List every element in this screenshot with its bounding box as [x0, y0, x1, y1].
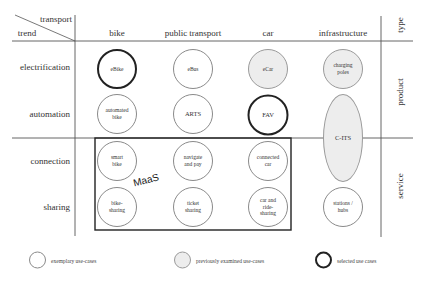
- use-case-bike-sharing: bike-sharing: [97, 187, 137, 227]
- use-case-navigate-and-pay: navigate and pay: [173, 141, 213, 181]
- use-case-connected-car: connected car: [248, 141, 288, 181]
- use-case-label: stations / hubs: [329, 200, 357, 214]
- corner-row-axis-label: trend: [18, 28, 37, 38]
- legend-exemplary-circle-icon: [29, 252, 46, 269]
- use-case-ebus: eBus: [173, 49, 213, 89]
- corner-column-axis-label: transport: [40, 14, 72, 24]
- legend-exemplary: exemplary use-cases: [29, 252, 96, 269]
- use-case-label: eBus: [186, 66, 201, 73]
- use-case-label: FAV: [260, 111, 276, 119]
- legend-selected-label: selected use cases: [337, 257, 376, 263]
- use-case-charging-poles: charging poles: [323, 49, 363, 89]
- use-case-label: eCar: [261, 66, 275, 73]
- legend-previously-examined: previously examined use-cases: [174, 252, 264, 269]
- use-case-label: charging poles: [329, 62, 357, 76]
- legend-exemplary-label: exemplary use-cases: [51, 257, 96, 263]
- use-case-stations-hubs: stations / hubs: [323, 187, 363, 227]
- use-case-label: smart bike: [105, 154, 129, 168]
- legend-previously-examined-label: previously examined use-cases: [196, 257, 264, 263]
- column-header-public-transport: public transport: [165, 28, 222, 38]
- row-label-connection: connection: [31, 156, 71, 166]
- use-case-label: ticket sharing: [180, 200, 206, 214]
- use-case-c-its: C-ITS: [323, 94, 363, 182]
- row-label-automation: automation: [30, 109, 71, 119]
- use-case-label: bike-sharing: [104, 200, 130, 214]
- type-label-product: product: [395, 78, 405, 106]
- use-case-arts: ARTS: [173, 94, 213, 134]
- use-case-matrix-diagram: transport trend bike public transport ca…: [0, 0, 422, 282]
- legend-filled-circle-icon: [174, 252, 191, 269]
- legend-selected-circle-icon: [315, 252, 332, 269]
- use-case-smart-bike: smart bike: [97, 141, 137, 181]
- use-case-fav: FAV: [248, 95, 289, 136]
- type-column-header: type: [395, 17, 405, 33]
- row-label-sharing: sharing: [44, 202, 71, 212]
- use-case-label: automated bike: [100, 107, 134, 121]
- type-label-service: service: [395, 173, 405, 198]
- use-case-label: eBike: [109, 66, 126, 73]
- use-case-car-and-ride-sharing: car and ride-sharing: [248, 187, 288, 227]
- use-case-ecar: eCar: [248, 49, 288, 89]
- use-case-label: C-ITS: [333, 134, 353, 142]
- use-case-label: ARTS: [183, 110, 203, 118]
- use-case-label: navigate and pay: [178, 154, 208, 168]
- use-case-automated-bike: automated bike: [97, 94, 137, 134]
- column-header-infrastructure: infrastructure: [319, 28, 367, 38]
- use-case-label: connected car: [251, 154, 285, 168]
- use-case-label: car and ride-sharing: [255, 197, 281, 218]
- column-header-bike: bike: [109, 28, 125, 38]
- use-case-ticket-sharing: ticket sharing: [173, 187, 213, 227]
- legend-selected: selected use cases: [315, 252, 376, 269]
- column-header-car: car: [263, 28, 274, 38]
- use-case-ebike: eBike: [97, 49, 137, 89]
- row-label-electrification: electrification: [20, 62, 70, 72]
